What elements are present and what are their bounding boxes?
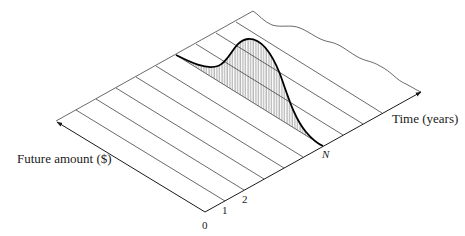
time-slice-lines [76, 22, 382, 201]
distribution-hatched-area [176, 39, 323, 146]
future-amount-axis [57, 122, 205, 212]
tick-label-2: 2 [242, 193, 248, 205]
time-axis [205, 92, 421, 212]
future-amount-axis-label: Future amount ($) [17, 151, 112, 166]
tick-label-0: 0 [202, 219, 208, 231]
cash-flow-diagram: Future amount ($) Time (years) 0 1 2 N [0, 0, 465, 236]
tick-label-1: 1 [222, 204, 228, 216]
tick-label-N: N [321, 148, 330, 160]
time-axis-label: Time (years) [392, 111, 458, 126]
